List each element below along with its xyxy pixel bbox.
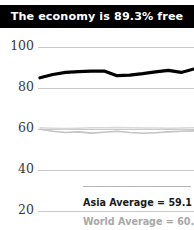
legend-label-world-average: World Average = 60.6	[83, 216, 194, 227]
plot-area: 100 80 60 40 20 Asia Average = 59.1 Worl…	[0, 28, 194, 230]
legend-row-world: World Average = 60.6	[83, 211, 191, 230]
legend-row-asia: Asia Average = 59.1	[83, 192, 191, 211]
page-title: The economy is 89.3% free	[11, 10, 184, 23]
legend-divider	[83, 186, 191, 187]
series-line-asia-average	[40, 129, 194, 133]
legend-label-asia-average: Asia Average = 59.1	[83, 197, 192, 208]
series-line-country	[40, 69, 194, 78]
chart-title-banner: The economy is 89.3% free	[0, 5, 194, 28]
series-line-world-average	[40, 128, 194, 129]
economy-freedom-chart-widget: The economy is 89.3% free 100 80 60 40 2…	[0, 0, 194, 230]
chart-legend: Asia Average = 59.1 World Average = 60.6	[83, 186, 191, 230]
